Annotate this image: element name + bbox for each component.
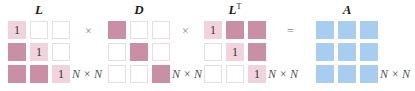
matrix-cell bbox=[316, 21, 334, 39]
matrix-d bbox=[108, 21, 172, 85]
matrix-cell bbox=[152, 43, 170, 61]
matrix-title-a: A bbox=[316, 2, 378, 18]
matrix-cell bbox=[152, 21, 170, 39]
multiply-operator: × bbox=[182, 24, 189, 39]
matrix-l: 111 bbox=[8, 21, 72, 85]
matrix-cell bbox=[204, 65, 222, 83]
matrix-cell bbox=[108, 43, 126, 61]
matrix-cell bbox=[316, 43, 334, 61]
matrix-cell bbox=[8, 43, 26, 61]
dimension-label-l-transpose: N × N bbox=[268, 67, 298, 82]
matrix-l-transpose: 111 bbox=[204, 21, 268, 85]
matrix-cell bbox=[338, 43, 356, 61]
matrix-cell bbox=[226, 65, 244, 83]
matrix-cell bbox=[108, 21, 126, 39]
multiply-operator: × bbox=[85, 24, 92, 39]
matrix-cell bbox=[130, 21, 148, 39]
matrix-cell bbox=[360, 65, 378, 83]
matrix-cell bbox=[248, 43, 266, 61]
equals-operator: = bbox=[287, 24, 294, 39]
matrix-a bbox=[316, 21, 380, 85]
matrix-cell bbox=[360, 21, 378, 39]
dimension-label-a: N × N bbox=[380, 67, 410, 82]
matrix-cell: 1 bbox=[52, 65, 70, 83]
matrix-cell bbox=[360, 43, 378, 61]
dimension-label-d: N × N bbox=[172, 67, 202, 82]
matrix-cell: 1 bbox=[30, 43, 48, 61]
matrix-cell bbox=[108, 65, 126, 83]
matrix-cell bbox=[30, 65, 48, 83]
matrix-cell bbox=[8, 65, 26, 83]
matrix-cell: 1 bbox=[226, 43, 244, 61]
matrix-cell bbox=[30, 21, 48, 39]
matrix-cell bbox=[316, 65, 334, 83]
dimension-label-l: N × N bbox=[72, 67, 102, 82]
matrix-cell bbox=[52, 21, 70, 39]
matrix-cell bbox=[204, 43, 222, 61]
matrix-cell: 1 bbox=[204, 21, 222, 39]
matrix-cell bbox=[338, 21, 356, 39]
matrix-cell bbox=[248, 21, 266, 39]
matrix-title-l: L bbox=[8, 2, 70, 18]
matrix-cell bbox=[226, 21, 244, 39]
matrix-cell bbox=[152, 65, 170, 83]
matrix-cell: 1 bbox=[248, 65, 266, 83]
matrix-cell bbox=[52, 43, 70, 61]
matrix-cell bbox=[338, 65, 356, 83]
matrix-cell bbox=[130, 43, 148, 61]
matrix-cell bbox=[130, 65, 148, 83]
matrix-cell: 1 bbox=[8, 21, 26, 39]
matrix-title-l-transpose: LT bbox=[204, 2, 266, 18]
matrix-title-d: D bbox=[108, 2, 170, 18]
